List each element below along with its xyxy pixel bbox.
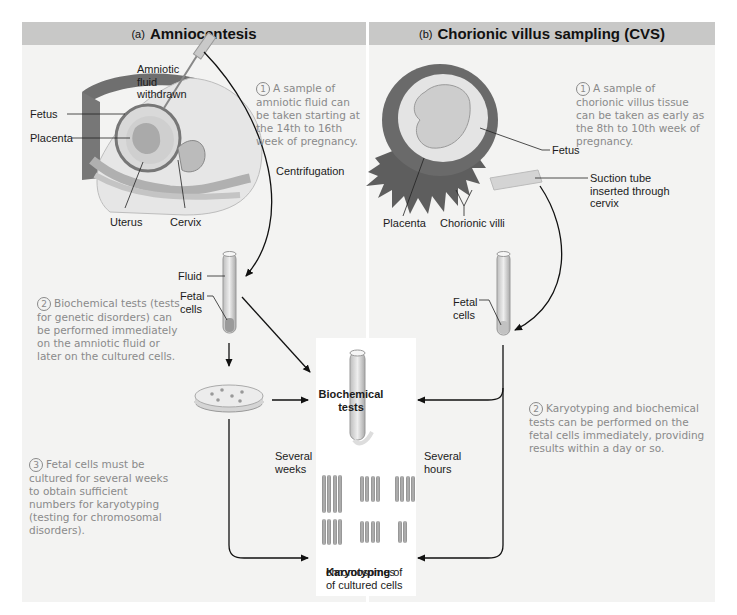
- amniotic-fluid-tube: [223, 252, 236, 334]
- step-number-icon: 1: [576, 82, 590, 96]
- step-2-amniocentesis: 2Biochemical tests (tests for genetic di…: [37, 284, 180, 363]
- fetal-cells-label-b: Fetal cells: [453, 296, 477, 321]
- chorion-illustration: [366, 64, 542, 214]
- step-2-cvs: 2Karyotyping and biochemical tests can b…: [529, 389, 704, 455]
- fetus-label-a: Fetus: [30, 108, 58, 121]
- chorionic-villi-label: Chorionic villi: [440, 217, 505, 230]
- several-weeks-label: Several weeks: [275, 450, 312, 475]
- amniotic-fluid-label: Amniotic fluid withdrawn: [137, 63, 187, 101]
- several-hours-label: Several hours: [424, 450, 461, 475]
- step-number-icon: 2: [529, 402, 543, 416]
- karyotyping-description: chromosomes of cultured cells: [326, 566, 402, 591]
- centrifugation-label: Centrifugation: [276, 165, 345, 178]
- step-1-amniocentesis: 1A sample of amniotic fluid can be taken…: [256, 69, 360, 148]
- cervix-label: Cervix: [170, 216, 201, 229]
- uterus-label: Uterus: [110, 216, 142, 229]
- step-number-icon: 1: [256, 82, 270, 96]
- abdomen-illustration: [82, 32, 262, 215]
- step-3-amniocentesis: 3Fetal cells must be cultured for severa…: [29, 445, 168, 537]
- suction-tube-label: Suction tube inserted through cervix: [590, 172, 670, 210]
- placenta-label-a: Placenta: [30, 132, 73, 145]
- fluid-label: Fluid: [178, 270, 202, 283]
- fetal-cells-tube: [497, 252, 510, 336]
- step-1-cvs: 1A sample of chorionic villus tissue can…: [576, 69, 704, 148]
- placenta-label-b: Placenta: [383, 217, 426, 230]
- fetal-cells-label-a: Fetal cells: [180, 290, 204, 315]
- step-number-icon: 2: [37, 297, 51, 311]
- petri-dish: [195, 385, 263, 412]
- chromosomes: [322, 475, 415, 545]
- biochemical-tests-label: Biochemical tests: [318, 388, 384, 413]
- step-number-icon: 3: [29, 458, 43, 472]
